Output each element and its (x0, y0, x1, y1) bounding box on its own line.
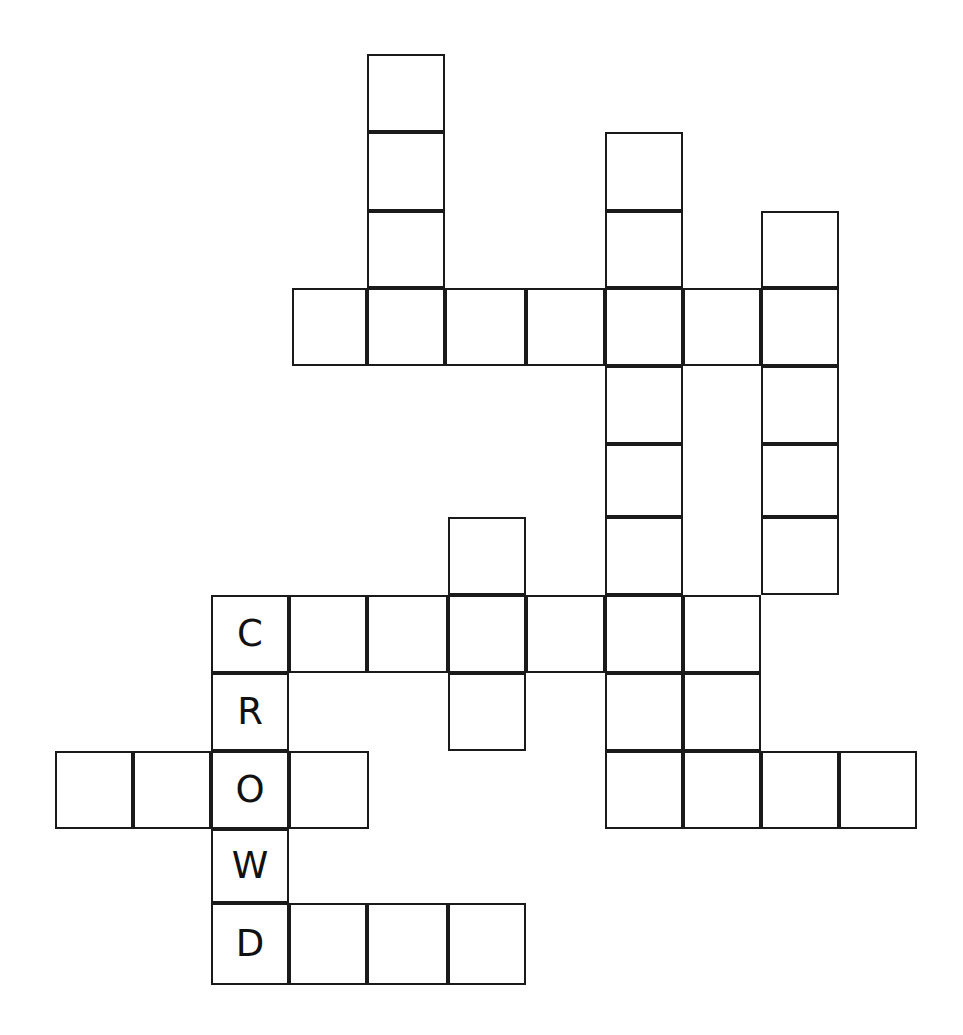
crossword-cell-empty[interactable] (605, 595, 683, 673)
cell-letter: W (232, 847, 269, 884)
crossword-cell-empty[interactable] (761, 366, 839, 444)
crossword-cell-empty[interactable] (761, 517, 839, 595)
crossword-cell-empty[interactable] (367, 211, 445, 288)
crossword-cell-empty[interactable] (289, 903, 367, 985)
crossword-cell-empty[interactable] (289, 751, 369, 829)
crossword-grid: CROWD (0, 0, 963, 1035)
cell-letter: O (235, 771, 264, 808)
crossword-cell-empty[interactable] (448, 673, 526, 751)
crossword-cell-empty[interactable] (839, 751, 917, 829)
cell-letter: D (236, 925, 265, 962)
crossword-cell-empty[interactable] (289, 595, 367, 673)
crossword-cell-empty[interactable] (445, 288, 526, 366)
crossword-cell-empty[interactable] (367, 903, 448, 985)
crossword-cell-empty[interactable] (448, 595, 526, 673)
crossword-cell-empty[interactable] (605, 444, 683, 517)
crossword-cell-empty[interactable] (526, 288, 605, 366)
crossword-cell-empty[interactable] (292, 288, 367, 366)
crossword-cell-empty[interactable] (605, 517, 683, 595)
crossword-cell-empty[interactable] (55, 751, 133, 829)
crossword-cell-empty[interactable] (605, 673, 683, 751)
crossword-cell-empty[interactable] (605, 288, 683, 366)
crossword-cell-empty[interactable] (526, 595, 605, 673)
crossword-cell-empty[interactable] (683, 595, 761, 673)
crossword-cell-empty[interactable] (367, 132, 445, 211)
crossword-cell-empty[interactable] (761, 444, 839, 517)
crossword-cell-filled[interactable]: O (211, 751, 289, 829)
crossword-cell-empty[interactable] (605, 751, 683, 829)
crossword-cell-empty[interactable] (448, 517, 526, 595)
crossword-cell-empty[interactable] (761, 751, 839, 829)
crossword-cell-empty[interactable] (448, 903, 526, 985)
crossword-cell-empty[interactable] (683, 288, 761, 366)
crossword-cell-empty[interactable] (605, 211, 683, 288)
crossword-cell-empty[interactable] (761, 288, 839, 366)
cell-letter: C (237, 615, 263, 652)
crossword-cell-filled[interactable]: W (211, 829, 289, 903)
crossword-cell-filled[interactable]: D (211, 903, 289, 985)
crossword-cell-empty[interactable] (367, 595, 448, 673)
crossword-cell-empty[interactable] (133, 751, 211, 829)
crossword-cell-empty[interactable] (367, 54, 445, 132)
crossword-cell-empty[interactable] (761, 211, 839, 288)
crossword-cell-empty[interactable] (367, 288, 445, 366)
crossword-puzzle: CROWD (0, 0, 963, 1035)
crossword-cell-empty[interactable] (683, 751, 761, 829)
crossword-cell-filled[interactable]: R (211, 673, 289, 751)
crossword-cell-empty[interactable] (683, 673, 761, 751)
crossword-cell-empty[interactable] (605, 366, 683, 444)
cell-letter: R (237, 693, 263, 730)
crossword-cell-empty[interactable] (605, 132, 683, 211)
crossword-cell-filled[interactable]: C (211, 595, 289, 673)
